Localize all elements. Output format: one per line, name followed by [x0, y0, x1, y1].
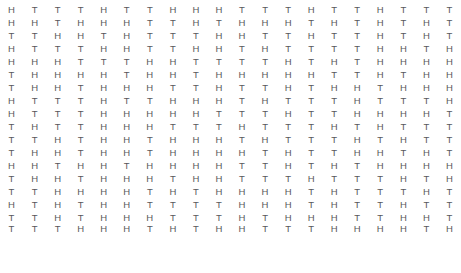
flip-cell: T	[277, 94, 300, 107]
flip-cell: H	[0, 42, 23, 55]
flip-row: HHHTTTHHTTTTHTHTHHHH	[0, 55, 461, 68]
flip-cell: H	[392, 81, 415, 94]
flip-cell: H	[0, 16, 23, 29]
flip-cell: T	[415, 172, 438, 185]
flip-cell: T	[230, 172, 253, 185]
flip-cell: H	[92, 42, 115, 55]
flip-cell: H	[184, 172, 207, 185]
flip-cell: T	[46, 224, 69, 233]
flip-cell: H	[369, 107, 392, 120]
flip-cell: T	[415, 42, 438, 55]
flip-cell: T	[392, 29, 415, 42]
flip-cell: H	[138, 55, 161, 68]
flip-cell: H	[230, 146, 253, 159]
flip-cell: H	[300, 3, 323, 16]
flip-cell: T	[138, 42, 161, 55]
flip-cell: H	[323, 81, 346, 94]
flip-cell: T	[392, 3, 415, 16]
flip-cell: H	[323, 198, 346, 211]
flip-cell: H	[369, 29, 392, 42]
flip-cell: H	[115, 224, 138, 233]
flip-cell: T	[254, 172, 277, 185]
flip-cell: T	[415, 94, 438, 107]
flip-row: HTTTHHTTHHTHTTTTHHTH	[0, 42, 461, 55]
flip-cell: T	[23, 3, 46, 16]
flip-cell: H	[323, 211, 346, 224]
flip-cell: H	[115, 81, 138, 94]
flip-cell: H	[92, 211, 115, 224]
flip-cell: T	[46, 159, 69, 172]
flip-cell: T	[300, 224, 323, 233]
flip-cell: T	[438, 146, 461, 159]
flip-cell: T	[300, 55, 323, 68]
flip-cell: H	[92, 185, 115, 198]
flip-cell: T	[92, 29, 115, 42]
flip-cell: T	[23, 29, 46, 42]
flip-cell: T	[184, 198, 207, 211]
flip-cell: T	[138, 185, 161, 198]
flip-cell: T	[300, 16, 323, 29]
flip-cell: T	[0, 81, 23, 94]
flip-cell: H	[138, 68, 161, 81]
flip-cell: H	[392, 133, 415, 146]
flip-cell: H	[115, 120, 138, 133]
flip-cell: T	[23, 211, 46, 224]
flip-cell: T	[46, 107, 69, 120]
flip-cell: T	[392, 185, 415, 198]
flip-cell: H	[92, 3, 115, 16]
flip-cell: T	[161, 120, 184, 133]
flip-row: TTTHHHTHTHHTTTHHHHTH	[0, 224, 461, 233]
flip-cell: H	[115, 146, 138, 159]
flip-cell: T	[369, 172, 392, 185]
flip-cell: T	[346, 3, 369, 16]
flip-row: HTTTHTTHHHTTTHTTHTTT	[0, 3, 461, 16]
flip-cell: H	[207, 159, 230, 172]
flip-row: HTTTHHHHHTTTHTTHHHHT	[0, 107, 461, 120]
flip-cell: H	[392, 211, 415, 224]
flip-cell: H	[230, 211, 253, 224]
flip-cell: H	[0, 198, 23, 211]
flip-cell: H	[92, 198, 115, 211]
flip-cell: T	[46, 3, 69, 16]
flip-cell: T	[323, 68, 346, 81]
flip-cell: T	[346, 42, 369, 55]
flip-cell: H	[438, 159, 461, 172]
flip-cell: H	[184, 146, 207, 159]
flip-cell: H	[346, 133, 369, 146]
flip-cell: T	[161, 211, 184, 224]
flip-cell: T	[0, 133, 23, 146]
flip-cell: T	[346, 16, 369, 29]
flip-cell: T	[23, 42, 46, 55]
flip-cell: H	[115, 42, 138, 55]
flip-cell: H	[369, 224, 392, 233]
flip-cell: H	[230, 198, 253, 211]
flip-cell: H	[46, 146, 69, 159]
flip-cell: H	[161, 146, 184, 159]
flip-cell: T	[438, 107, 461, 120]
flip-cell: H	[438, 42, 461, 55]
flip-cell: T	[138, 224, 161, 233]
flip-cell: H	[23, 172, 46, 185]
flip-cell: T	[69, 172, 92, 185]
flip-cell: T	[346, 159, 369, 172]
flip-cell: H	[415, 159, 438, 172]
flip-row: TTHTHHTHHHTHTTTHTHTT	[0, 133, 461, 146]
flip-cell: T	[277, 29, 300, 42]
flip-cell: H	[438, 172, 461, 185]
flip-cell: T	[161, 81, 184, 94]
flip-cell: T	[138, 3, 161, 16]
flip-cell: T	[115, 3, 138, 16]
flip-cell: H	[277, 211, 300, 224]
flip-cell: T	[277, 42, 300, 55]
flip-row: HHTHHTHHHHTTHTHTHHHH	[0, 159, 461, 172]
flip-cell: H	[184, 94, 207, 107]
flip-cell: H	[392, 159, 415, 172]
flip-cell: H	[184, 3, 207, 16]
flip-cell: H	[69, 68, 92, 81]
flip-cell: T	[23, 94, 46, 107]
flip-cell: H	[23, 16, 46, 29]
flip-cell: T	[23, 224, 46, 233]
flip-cell: H	[438, 81, 461, 94]
flip-cell: T	[115, 68, 138, 81]
flip-row: THHTHHHTHHTTTHTTTHTH	[0, 172, 461, 185]
